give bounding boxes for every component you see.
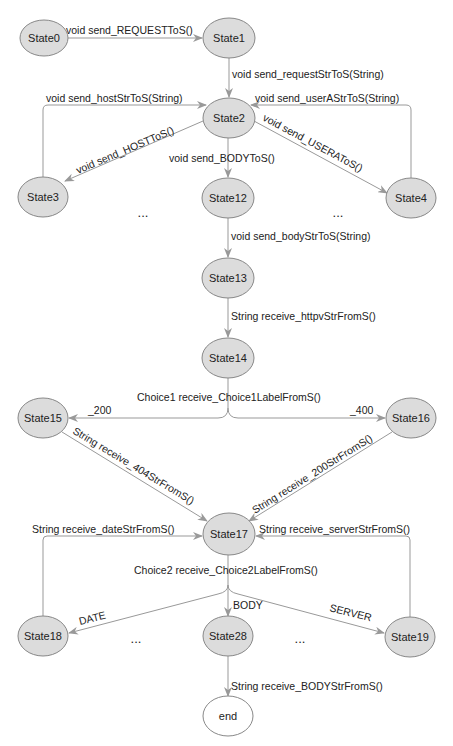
node-state12: State12 (202, 178, 254, 218)
svg-text:State14: State14 (209, 352, 247, 364)
label-send-request: void send_REQUESTToS() (66, 24, 193, 36)
svg-text:State15: State15 (24, 412, 62, 424)
node-state16: State16 (386, 398, 436, 438)
svg-text:State1: State1 (213, 32, 245, 44)
state-diagram: void send_REQUESTToS() void send_request… (0, 0, 453, 746)
ellipsis-right-upper: ... (333, 205, 344, 220)
label-choice-400: _400 (349, 404, 374, 416)
edge-state16-state17 (249, 432, 392, 521)
node-state19: State19 (385, 617, 435, 657)
node-state18: State18 (18, 616, 68, 656)
node-end: end (203, 696, 253, 736)
svg-text:State4: State4 (395, 192, 427, 204)
svg-text:State16: State16 (392, 412, 430, 424)
svg-text:State17: State17 (210, 528, 248, 540)
node-state13: State13 (202, 258, 254, 298)
label-send-usera: void send_USERAToS() (261, 111, 365, 174)
svg-text:State3: State3 (27, 191, 59, 203)
label-receive-date-str: String receive_dateStrFromS() (32, 523, 174, 535)
svg-text:State13: State13 (209, 272, 247, 284)
label-choice1: Choice1 receive_Choice1LabelFromS() (137, 391, 321, 403)
node-state0: State0 (20, 20, 68, 56)
edge-state3-state2 (43, 105, 206, 177)
node-state4: State4 (386, 178, 436, 218)
label-receive-404-str: String receive_404StrFromS() (71, 424, 197, 506)
node-state3: State3 (18, 177, 68, 217)
node-state1: State1 (203, 18, 255, 58)
svg-text:State18: State18 (24, 630, 62, 642)
node-state2: State2 (203, 98, 255, 138)
label-send-usera-str: void send_userAStrToS(String) (255, 92, 399, 104)
svg-text:end: end (219, 710, 237, 722)
node-state14: State14 (202, 338, 254, 378)
ellipsis-right-lower: ... (295, 631, 306, 646)
label-send-host-str: void send_hostStrToS(String) (46, 92, 183, 104)
label-choice-body: BODY (233, 599, 263, 611)
label-receive-server-str: String receive_serverStrFromS() (259, 523, 410, 535)
svg-text:State19: State19 (391, 631, 429, 643)
svg-text:State0: State0 (28, 32, 60, 44)
label-choice2: Choice2 receive_Choice2LabelFromS() (134, 564, 318, 576)
ellipsis-left-upper: ... (138, 205, 149, 220)
node-state28: State28 (203, 616, 253, 656)
label-send-request-str: void send_requestStrToS(String) (232, 68, 384, 80)
label-send-body: void send_BODYToS() (169, 152, 275, 164)
label-receive-body-str: String receive_BODYStrFromS() (231, 680, 383, 692)
svg-text:State2: State2 (213, 112, 245, 124)
label-send-body-str: void send_bodyStrToS(String) (231, 230, 371, 242)
node-state15: State15 (18, 398, 68, 438)
ellipsis-left-lower: ... (131, 631, 142, 646)
edge-state15-state17 (62, 432, 207, 521)
label-choice-200: _200 (87, 404, 112, 416)
label-receive-200-str: String receive_200StrFromS() (250, 432, 375, 516)
label-send-host: void send_HOSTToS() (74, 124, 175, 176)
svg-text:State28: State28 (209, 630, 247, 642)
svg-text:State12: State12 (209, 192, 247, 204)
node-state17: State17 (203, 513, 255, 555)
label-receive-httpv-str: String receive_httpvStrFromS() (231, 310, 376, 322)
